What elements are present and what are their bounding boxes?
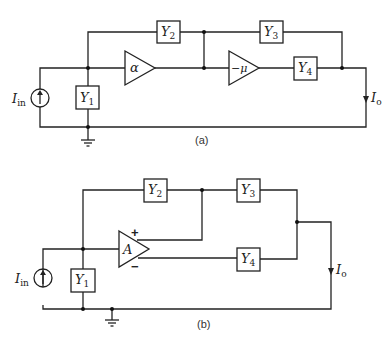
circuit-figure: Iin Y1 Y2 Y3 Y4 α −μ Io (a)	[0, 0, 389, 337]
junction-dot	[81, 307, 85, 311]
circuit-a: Iin Y1 Y2 Y3 Y4 α −μ Io (a)	[11, 21, 382, 146]
output-label: Io	[370, 90, 382, 107]
junction-dot	[202, 30, 206, 34]
circuit-b: Iin Y1 Y2 Y3 Y4 A + − Io (b)	[14, 179, 347, 330]
junction-dot	[110, 307, 114, 311]
output-arrow-icon	[363, 96, 369, 103]
source-label: Iin	[11, 91, 26, 108]
caption-a: (a)	[195, 134, 208, 146]
junction-dot	[295, 220, 299, 224]
junction-dot	[202, 66, 206, 70]
output-arrow-icon	[328, 268, 334, 275]
minus-terminal-label: −	[131, 259, 139, 274]
source-label: Iin	[14, 271, 29, 288]
amp-gain-label: A	[122, 242, 132, 257]
junction-dot	[81, 247, 85, 251]
mu-gain-label: −μ	[231, 62, 247, 75]
wire-b-y3-y4-node	[260, 190, 297, 259]
ground-icon	[105, 320, 119, 326]
junction-dot	[86, 125, 90, 129]
wire-b-output-loop	[43, 222, 331, 309]
junction-dot	[200, 188, 204, 192]
junction-dot	[86, 66, 90, 70]
plus-terminal-label: +	[131, 225, 139, 240]
caption-b: (b)	[197, 318, 210, 330]
ground-icon	[81, 140, 95, 146]
junction-dot	[340, 66, 344, 70]
output-label: Io	[335, 262, 347, 279]
alpha-gain-label: α	[130, 60, 139, 75]
current-source-icon	[31, 89, 49, 107]
